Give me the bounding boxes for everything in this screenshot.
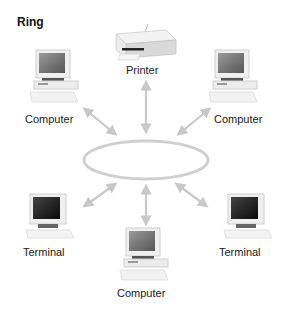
label-terminal-bottom-left: Terminal	[23, 246, 65, 258]
label-computer-bottom: Computer	[117, 287, 165, 299]
arrow-computer-top-right	[180, 110, 208, 133]
label-computer-top-left: Computer	[25, 113, 73, 125]
ring-network	[84, 141, 208, 179]
arrow-terminal-bottom-right	[178, 185, 205, 205]
terminal-icon-bottom-right	[224, 194, 272, 238]
label-computer-top-right: Computer	[214, 113, 262, 125]
computer-icon-top-right	[209, 50, 257, 102]
arrow-terminal-bottom-left	[86, 185, 114, 205]
label-printer: Printer	[126, 64, 158, 76]
ring-topology-diagram	[0, 0, 292, 316]
printer-icon	[116, 24, 176, 60]
arrow-computer-top-left	[86, 110, 114, 133]
computer-icon-top-left	[30, 50, 78, 102]
computer-icon-bottom	[120, 228, 168, 280]
label-terminal-bottom-right: Terminal	[219, 246, 261, 258]
terminal-icon-bottom-left	[26, 194, 74, 238]
